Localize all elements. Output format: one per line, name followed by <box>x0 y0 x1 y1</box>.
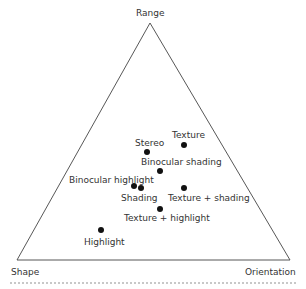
cropped-caption <box>10 282 296 288</box>
vertex-label-orientation: Orientation <box>245 268 296 277</box>
data-point <box>138 185 144 191</box>
vertex-label-shape: Shape <box>11 268 39 277</box>
point-label: Binocular highlight <box>69 176 154 185</box>
point-label: Stereo <box>135 139 164 148</box>
point-label: Texture + shading <box>168 194 250 203</box>
data-point <box>181 185 187 191</box>
data-point <box>144 149 150 155</box>
data-point <box>157 168 163 174</box>
point-label: Highlight <box>84 238 125 247</box>
point-label: Texture + highlight <box>124 214 210 223</box>
vertex-label-range: Range <box>136 9 165 18</box>
data-point <box>98 227 104 233</box>
data-point <box>157 206 163 212</box>
point-label: Shading <box>121 194 158 203</box>
point-label: Binocular shading <box>141 158 222 167</box>
data-point <box>181 142 187 148</box>
point-label: Texture <box>172 131 205 140</box>
